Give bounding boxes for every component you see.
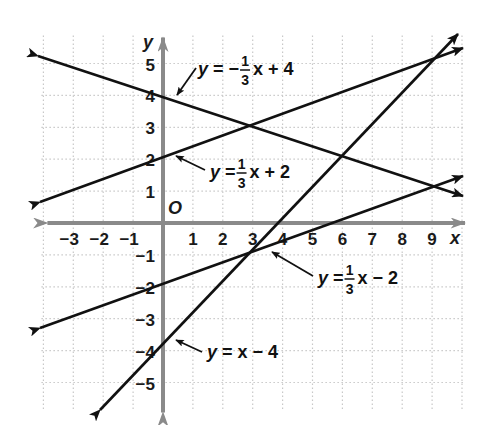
fraction-denominator: 3 [238, 175, 246, 191]
equation-text: y = x − 4 [206, 342, 278, 362]
y-tick-label: 5 [146, 56, 155, 75]
equation-text: y = − [197, 59, 239, 79]
x-tick-label: 9 [427, 230, 436, 249]
leader-arrow-icon [176, 156, 205, 170]
fraction-numerator: 1 [346, 262, 354, 278]
fraction-numerator: 1 [238, 156, 246, 172]
equation-label-2: y = 13x + 2 [176, 156, 290, 191]
equation-label-3: y = 13x − 2 [272, 252, 398, 297]
equation-text: y = [317, 268, 344, 288]
x-tick-label: 7 [368, 230, 377, 249]
y-tick-label: −4 [136, 343, 156, 362]
fraction-numerator: 1 [241, 53, 249, 69]
y-axis-label: y [142, 32, 154, 52]
equation-label-1: y = −13x + 4 [177, 53, 294, 95]
tick-labels: −3−2−112345678954321−1−2−3−4−5xyO [60, 32, 461, 394]
x-axis-label: x [449, 228, 461, 248]
x-tick-label: −3 [60, 230, 79, 249]
x-tick-label: 1 [188, 230, 197, 249]
equation-suffix: x + 2 [250, 162, 291, 182]
y-tick-label: 3 [146, 119, 155, 138]
x-tick-label: 6 [338, 230, 347, 249]
fraction-denominator: 3 [346, 281, 354, 297]
origin-label: O [168, 198, 182, 218]
y-tick-label: −1 [136, 247, 155, 266]
leader-arrow-icon [177, 68, 196, 95]
equation-label-4: y = x − 4 [176, 340, 278, 362]
coordinate-plane-graph: −3−2−112345678954321−1−2−3−4−5xyO y = −1… [0, 0, 491, 425]
x-tick-label: −2 [90, 230, 109, 249]
leader-arrow-icon [272, 252, 313, 276]
equation-suffix: x − 2 [358, 268, 399, 288]
y-tick-label: −3 [136, 311, 155, 330]
fraction-denominator: 3 [241, 72, 249, 88]
x-tick-label: 5 [308, 230, 317, 249]
equation-labels: y = −13x + 4y = 13x + 2y = 13x − 2y = x … [176, 53, 398, 362]
equation-suffix: x + 4 [253, 59, 294, 79]
y-tick-label: 1 [146, 183, 155, 202]
y-tick-label: −5 [136, 375, 155, 394]
y-tick-label: 4 [146, 87, 156, 106]
equation-text: y = [209, 162, 236, 182]
x-tick-label: 2 [218, 230, 227, 249]
leader-arrow-icon [176, 340, 202, 352]
x-tick-label: 8 [397, 230, 406, 249]
